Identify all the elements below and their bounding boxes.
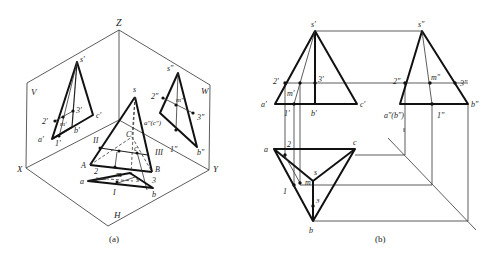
- label-2-pyramid: 2: [94, 167, 98, 176]
- label-b-dprime-b: b″: [471, 100, 479, 109]
- label-s-dprime-b: s″: [418, 20, 425, 29]
- label-b-top: b: [309, 226, 313, 235]
- label-3-prime-b: 3′: [317, 75, 324, 84]
- label-c-prime-a: c′: [96, 111, 102, 120]
- axis-label-y: Y: [213, 164, 219, 174]
- label-I-pyramid: I: [112, 188, 116, 197]
- axis-label-x: X: [16, 164, 23, 174]
- label-m-prime-b: m′: [287, 89, 295, 98]
- label-2-prime-a: 2′: [42, 117, 48, 126]
- three-view-projection-diagram: Z V W X Y H s′ 2′ m′ 3′ c′ b′ a′ 1′ s″ 2…: [0, 0, 492, 258]
- label-3-top: 3: [315, 197, 320, 205]
- label-ac-dprime-a: a″(c″): [144, 119, 162, 127]
- label-3-pyramid: 3: [151, 176, 156, 185]
- axis-label-w: W: [201, 86, 210, 96]
- label-III: III: [154, 148, 163, 157]
- label-3-dprime-a: 3″: [196, 113, 205, 122]
- label-ab-dprime-b: a″(b″): [384, 111, 404, 120]
- label-B-upper: B: [155, 165, 160, 174]
- figure-a-v-projection: [52, 62, 93, 139]
- label-m-top: m: [305, 178, 311, 187]
- label-b-prime-a: b′: [74, 126, 80, 135]
- axis-label-z: Z: [116, 17, 122, 28]
- figure-b-side-view: [400, 31, 468, 106]
- label-3-dprime-b: 3″: [459, 79, 468, 88]
- axis-label-v: V: [31, 87, 38, 97]
- figure-a-projection-box: [26, 30, 210, 226]
- label-b-dprime-a: b″: [197, 148, 205, 157]
- label-m-prime-a: m′: [60, 120, 67, 128]
- label-s-prime-b: s′: [311, 20, 316, 29]
- label-m-dprime-a: m″: [176, 96, 184, 104]
- label-C-upper: C: [126, 130, 132, 139]
- caption-b: (b): [375, 234, 386, 244]
- label-1-prime-b: 1′: [284, 109, 290, 118]
- label-s-pyramid: s: [133, 85, 136, 94]
- label-b-pyramid: b: [152, 190, 156, 199]
- label-3-prime-a: 3′: [75, 106, 82, 115]
- label-s-low-pyramid: s: [136, 175, 139, 184]
- axis-label-h: H: [113, 210, 121, 220]
- label-c-prime-b: c′: [360, 100, 366, 109]
- label-A-upper: A: [80, 161, 86, 170]
- label-m-pyramid: m: [116, 170, 122, 179]
- label-2-prime-b: 2′: [273, 77, 279, 86]
- label-m-dprime-b: m″: [431, 73, 441, 82]
- label-1-prime-a: 1′: [55, 139, 61, 148]
- label-1-top: 1: [283, 187, 287, 196]
- label-2-top: 2: [287, 140, 291, 149]
- label-1-dprime-a: 1″: [170, 145, 178, 154]
- label-2-dprime-b: 2″: [393, 77, 401, 86]
- label-2-dprime-a: 2″: [151, 92, 159, 101]
- label-s-top: s: [314, 168, 317, 177]
- label-c-top: c: [353, 138, 357, 147]
- label-a-top: a: [264, 145, 268, 154]
- label-a-prime-b: a′: [261, 100, 267, 109]
- label-II: II: [92, 136, 99, 145]
- caption-a: (a): [109, 234, 119, 244]
- label-s-dprime-a: s″: [167, 64, 174, 73]
- label-a-prime-a: a′: [38, 135, 44, 144]
- label-a-pyramid: a: [80, 177, 84, 186]
- label-1-dprime-b: 1″: [437, 111, 445, 120]
- label-c-lower: c: [134, 144, 138, 153]
- label-s-prime-a: s′: [80, 55, 85, 64]
- label-b-prime-b: b′: [311, 109, 317, 118]
- figure-a-w-projection: [160, 73, 197, 147]
